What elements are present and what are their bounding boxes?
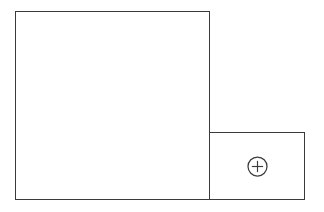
- add-button[interactable]: Add: [210, 133, 304, 199]
- main-panel-label: Main panel: [15, 11, 16, 12]
- main-panel[interactable]: Main panel: [15, 11, 210, 200]
- plus-circle-icon[interactable]: [247, 156, 268, 177]
- diagram-canvas: Main panel Secondary panel Add: [0, 0, 324, 212]
- secondary-panel[interactable]: Secondary panel Add: [209, 132, 305, 200]
